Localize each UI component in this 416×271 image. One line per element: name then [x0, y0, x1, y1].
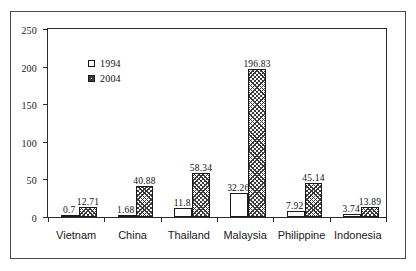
bar-value-label: 0.7	[63, 205, 75, 215]
y-axis-tick: 50	[43, 179, 48, 180]
bar-value-label: 13.89	[359, 197, 381, 207]
x-axis-category-label: Indonesia	[334, 229, 382, 241]
bar-1994-malaysia: 32.26	[230, 193, 248, 217]
bar-1994-indonesia: 3.74	[343, 214, 361, 217]
y-axis-tick-label: 100	[21, 137, 37, 148]
bar-1994-vietnam: 0.7	[61, 215, 79, 217]
x-axis-tick	[386, 217, 387, 222]
y-axis-tick: 100	[43, 142, 48, 143]
bar-2004-indonesia: 13.89	[361, 207, 379, 217]
bar-2004-malaysia: 196.83	[248, 69, 266, 217]
bar-value-label: 7.92	[286, 201, 303, 211]
y-axis-tick-label: 0	[32, 213, 37, 224]
x-axis-tick	[217, 217, 218, 222]
legend-label: 2004	[100, 73, 121, 84]
y-axis-tick-label: 150	[21, 100, 37, 111]
x-axis-tick	[161, 217, 162, 222]
y-axis-tick-label: 200	[21, 62, 37, 73]
bar-value-label: 11.8	[174, 198, 191, 208]
x-axis-tick	[273, 217, 274, 222]
bar-1994-philippine: 7.92	[287, 211, 305, 217]
x-axis-tick	[104, 217, 105, 222]
chart-figure: 250 200 150 100 50 0 Vietnam China Thail…	[10, 11, 406, 259]
bar-1994-thailand: 11.8	[174, 208, 192, 217]
y-axis-tick: 200	[43, 67, 48, 68]
bar-value-label: 3.74	[343, 204, 360, 214]
x-axis-tick	[48, 217, 49, 222]
bar-value-label: 12.71	[77, 197, 99, 207]
legend-swatch-empty-square-icon	[88, 60, 95, 67]
bar-2004-philippine: 45.14	[305, 183, 323, 217]
y-axis-tick: 150	[43, 104, 48, 105]
bar-value-label: 32.26	[227, 183, 249, 193]
bar-2004-vietnam: 12.71	[79, 207, 97, 217]
bar-1994-china: 1.68	[118, 215, 136, 217]
bar-value-label: 45.14	[302, 173, 324, 183]
y-axis-tick-label: 250	[21, 25, 37, 36]
x-axis-category-label: Philippine	[278, 229, 326, 241]
x-axis-category-label: China	[118, 229, 147, 241]
bar-value-label: 58.34	[190, 163, 212, 173]
bar-2004-thailand: 58.34	[192, 173, 210, 217]
legend-swatch-hatched-square-icon	[88, 75, 95, 82]
chart-legend: 1994 2004	[88, 56, 121, 86]
legend-label: 1994	[100, 58, 121, 69]
plot-area: 250 200 150 100 50 0 Vietnam China Thail…	[47, 28, 387, 218]
x-axis-category-label: Thailand	[168, 229, 210, 241]
legend-entry-1994: 1994	[88, 56, 121, 71]
bar-2004-china: 40.88	[136, 186, 154, 217]
x-axis-tick	[330, 217, 331, 222]
legend-entry-2004: 2004	[88, 71, 121, 86]
y-axis-tick: 250	[43, 29, 48, 30]
bar-value-label: 1.68	[117, 205, 134, 215]
x-axis-category-label: Vietnam	[56, 229, 96, 241]
bar-value-label: 196.83	[243, 59, 270, 69]
bar-value-label: 40.88	[133, 176, 155, 186]
x-axis-category-label: Malaysia	[223, 229, 266, 241]
y-axis-tick-label: 50	[27, 175, 37, 186]
